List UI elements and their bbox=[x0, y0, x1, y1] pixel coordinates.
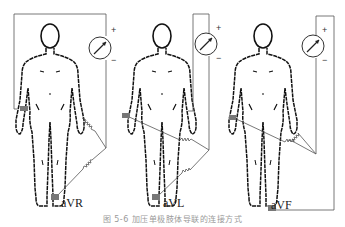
lead-diagram: + − aVR + − aVL + − aVF bbox=[0, 0, 345, 227]
lead-label-avr: aVR bbox=[61, 196, 83, 210]
lead-label-avl: aVL bbox=[163, 196, 184, 210]
electrode-left-leg bbox=[51, 194, 59, 200]
meter-minus: − bbox=[111, 55, 116, 65]
meter-plus: + bbox=[216, 23, 221, 33]
body-outline bbox=[229, 24, 297, 206]
panel-avf: + − aVF bbox=[229, 16, 334, 212]
galvanometer-icon bbox=[302, 35, 324, 57]
meter-minus: − bbox=[322, 55, 327, 65]
meter-plus: + bbox=[111, 25, 116, 35]
meter-minus: − bbox=[216, 53, 221, 63]
electrode-right-arm bbox=[122, 113, 130, 118]
galvanometer-icon bbox=[195, 33, 217, 55]
electrode-right-arm bbox=[20, 106, 28, 111]
figure-caption: 图 5-6 加压单极肢体导联的连接方式 bbox=[0, 213, 345, 224]
electrode-right-arm bbox=[229, 115, 236, 120]
galvanometer-icon bbox=[89, 37, 111, 59]
panel-avr: + − aVR bbox=[14, 14, 116, 210]
body-outline bbox=[128, 24, 196, 206]
lead-label-avf: aVF bbox=[271, 198, 292, 212]
panel-avl: + − aVL bbox=[122, 14, 221, 210]
meter-plus: + bbox=[322, 25, 327, 35]
electrode-left-leg bbox=[152, 194, 160, 200]
